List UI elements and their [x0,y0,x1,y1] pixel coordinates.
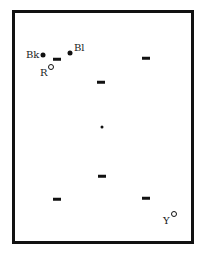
point-y-marker [171,211,177,217]
point-bl-label: Bl [74,43,85,53]
point-r-marker [48,64,54,70]
center-point-marker [101,126,104,129]
point-bl-marker [68,51,73,56]
dash-marker [53,58,61,61]
point-bk-marker [41,53,46,58]
dash-marker [98,175,106,178]
dash-marker [53,198,61,201]
dash-marker [142,197,150,200]
point-r-label: R [40,68,48,78]
dash-marker [142,57,150,60]
point-bk-label: Bk [26,50,39,60]
point-y-label: Y [163,216,170,226]
dash-marker [97,81,105,84]
